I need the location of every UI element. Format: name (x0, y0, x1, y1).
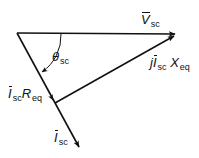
r-factor: R (22, 87, 31, 100)
i-symbol: I (8, 87, 12, 100)
i-sc-r-eq-label: IscReq (8, 87, 42, 103)
x-subscript: eq (180, 62, 190, 72)
v-symbol: V (141, 13, 150, 26)
theta-subscript: sc (60, 56, 69, 66)
i-subscript: sc (13, 93, 22, 103)
phasor-diagram (0, 0, 199, 158)
x-factor: X (170, 56, 179, 69)
i-sc-label: Isc (54, 131, 68, 147)
v-sc-vector (17, 33, 175, 34)
v-sc-label: Vsc (141, 13, 160, 29)
j-i-sc-x-eq-label: jIsc Xeq (150, 56, 190, 72)
i-symbol: I (54, 131, 58, 144)
r-subscript: eq (32, 93, 42, 103)
theta-sc-label: θsc (52, 50, 69, 66)
theta-symbol: θ (52, 50, 59, 63)
i-subscript: sc (158, 62, 167, 72)
i-symbol: I (153, 56, 157, 69)
i-subscript: sc (59, 137, 68, 147)
v-subscript: sc (151, 19, 160, 29)
